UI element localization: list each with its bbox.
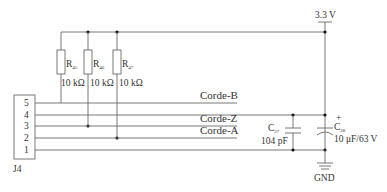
r46-ref: R46: [93, 59, 105, 70]
ground-label: GND: [314, 173, 335, 183]
r45-ref: R45: [66, 59, 78, 70]
connector-ref: J4: [13, 164, 22, 174]
pin-label-5: 5: [24, 98, 29, 108]
r47-ref: R47: [122, 59, 134, 70]
resistor-r47: [113, 50, 121, 74]
power-label: 3.3 V: [315, 10, 336, 20]
r46-value: 10 kΩ: [90, 78, 114, 88]
resistor-r46: [84, 50, 92, 74]
resistor-r45: [57, 50, 65, 74]
net-label-corde-z: Corde-Z: [200, 112, 238, 124]
junction-dot: [323, 113, 326, 116]
junction-dot: [323, 30, 326, 33]
c28-value: 10 μF/63 V: [334, 134, 378, 144]
pin-label-2: 2: [24, 133, 29, 143]
circuit-schematic: 3.3 V R45 10 kΩ R46 10 kΩ R47 10 kΩ 5 4 …: [0, 0, 387, 192]
pin-label-4: 4: [24, 110, 29, 120]
c27-ref: C27: [268, 123, 280, 134]
c27-value: 104 pF: [261, 136, 288, 146]
pin-label-1: 1: [24, 145, 29, 155]
r45-value: 10 kΩ: [61, 78, 85, 88]
net-label-corde-b: Corde-B: [200, 89, 238, 101]
pin-label-3: 3: [24, 121, 29, 131]
c28-ref: C28: [334, 122, 346, 133]
net-label-corde-a: Corde-A: [200, 124, 239, 136]
r47-value: 10 kΩ: [119, 78, 143, 88]
junction-dot: [291, 148, 294, 151]
